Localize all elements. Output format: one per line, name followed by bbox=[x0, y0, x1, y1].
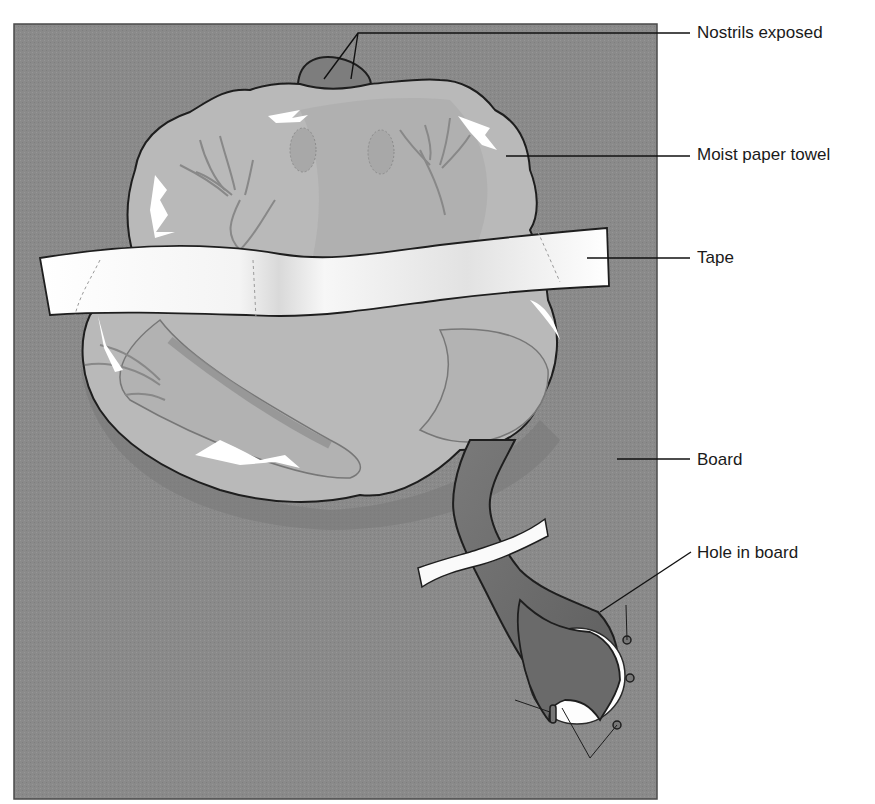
frog-on-board-diagram bbox=[0, 0, 875, 804]
label-board: Board bbox=[697, 450, 742, 470]
left-eye-bump bbox=[290, 128, 316, 172]
label-nostrils-exposed: Nostrils exposed bbox=[697, 23, 823, 43]
label-moist-paper-towel: Moist paper towel bbox=[697, 145, 830, 165]
right-eye-bump bbox=[368, 130, 394, 174]
label-hole-in-board: Hole in board bbox=[697, 543, 798, 563]
label-tape: Tape bbox=[697, 248, 734, 268]
